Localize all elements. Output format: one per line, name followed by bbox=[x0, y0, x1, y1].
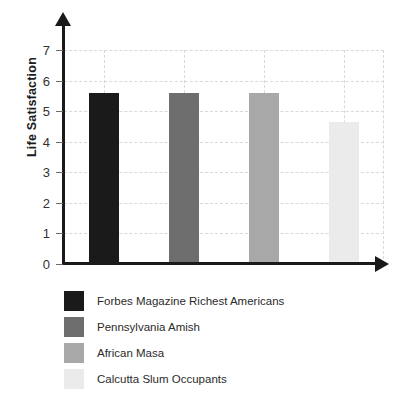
legend-color-swatch bbox=[64, 317, 84, 337]
legend-item: Calcutta Slum Occupants bbox=[64, 366, 394, 392]
legend-item: African Masa bbox=[64, 340, 394, 366]
gridline-horizontal bbox=[64, 81, 384, 82]
y-tick-label: 5 bbox=[26, 105, 50, 118]
bar bbox=[89, 93, 119, 264]
y-tick-label: 7 bbox=[26, 44, 50, 57]
y-axis-arrowhead bbox=[55, 12, 71, 26]
gridline-horizontal bbox=[64, 50, 384, 51]
y-tick-label: 4 bbox=[26, 135, 50, 148]
x-axis-arrowhead bbox=[375, 256, 389, 272]
y-tick-mark bbox=[56, 264, 63, 265]
x-axis-line bbox=[62, 262, 377, 265]
plot-area bbox=[64, 50, 384, 264]
y-axis-line bbox=[62, 22, 65, 264]
legend-item: Forbes Magazine Richest Americans bbox=[64, 288, 394, 314]
chart-legend: Forbes Magazine Richest AmericansPennsyl… bbox=[64, 288, 394, 392]
y-tick-mark bbox=[56, 203, 63, 204]
y-tick-label: 3 bbox=[26, 166, 50, 179]
legend-color-swatch bbox=[64, 291, 84, 311]
y-tick-label: 0 bbox=[26, 258, 50, 271]
bar bbox=[249, 93, 279, 264]
y-tick-mark bbox=[56, 172, 63, 173]
y-tick-mark bbox=[56, 142, 63, 143]
legend-color-swatch bbox=[64, 343, 84, 363]
y-tick-label: 1 bbox=[26, 227, 50, 240]
legend-color-swatch bbox=[64, 369, 84, 389]
y-tick-label: 6 bbox=[26, 74, 50, 87]
gridline-vertical bbox=[383, 50, 384, 264]
y-tick-mark bbox=[56, 81, 63, 82]
legend-label: Calcutta Slum Occupants bbox=[97, 373, 227, 385]
bar-chart-figure: Life Satisfaction 01234567 Forbes Magazi… bbox=[0, 0, 406, 410]
bar bbox=[169, 93, 199, 264]
y-tick-mark bbox=[56, 50, 63, 51]
legend-label: African Masa bbox=[97, 347, 164, 359]
bar bbox=[329, 122, 359, 264]
y-tick-mark bbox=[56, 233, 63, 234]
y-tick-label: 2 bbox=[26, 196, 50, 209]
legend-label: Pennsylvania Amish bbox=[97, 321, 200, 333]
legend-item: Pennsylvania Amish bbox=[64, 314, 394, 340]
legend-label: Forbes Magazine Richest Americans bbox=[97, 295, 284, 307]
y-tick-mark bbox=[56, 111, 63, 112]
